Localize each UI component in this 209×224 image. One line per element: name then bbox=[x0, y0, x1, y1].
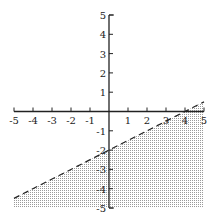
x-tick-label: -2 bbox=[66, 115, 76, 126]
y-tick-label: -1 bbox=[96, 126, 106, 137]
x-tick-label: -4 bbox=[28, 115, 38, 126]
y-tick-label: 3 bbox=[100, 49, 106, 60]
x-tick-label: -5 bbox=[9, 115, 19, 126]
y-tick-label: 4 bbox=[100, 29, 106, 40]
x-tick-label: 3 bbox=[163, 115, 169, 126]
x-tick-label: -3 bbox=[47, 115, 57, 126]
x-tick-label: 2 bbox=[144, 115, 150, 126]
y-tick-label: -3 bbox=[96, 164, 106, 175]
x-tick-label: 1 bbox=[125, 115, 131, 126]
y-tick-label: -5 bbox=[96, 203, 106, 214]
y-tick-label: -4 bbox=[96, 184, 106, 195]
y-tick-label: 1 bbox=[100, 87, 106, 98]
y-tick-label: 5 bbox=[100, 10, 106, 21]
inequality-graph: -5-4-3-2-11234554321-1-2-3-4-5 bbox=[0, 0, 209, 224]
x-tick-label: -1 bbox=[85, 115, 95, 126]
x-tick-label: 4 bbox=[182, 115, 188, 126]
y-tick-label: 2 bbox=[100, 68, 106, 79]
y-tick-label: -2 bbox=[96, 145, 106, 156]
x-tick-label: 5 bbox=[201, 115, 207, 126]
